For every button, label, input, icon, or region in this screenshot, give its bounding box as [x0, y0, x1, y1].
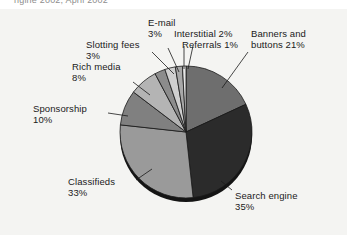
label-banners-pct: buttons 21%	[251, 40, 306, 51]
label-classifieds-text: Classifieds	[68, 176, 115, 187]
label-sponsorship: Sponsorship 10%	[33, 104, 87, 125]
label-banners: Banners and buttons 21%	[251, 29, 306, 50]
label-search-engine-text: Search engine	[235, 190, 298, 201]
label-banners-text: Banners and	[251, 28, 306, 39]
pie-slices	[120, 66, 252, 198]
label-interstitial-text: Interstitial 2%	[174, 28, 233, 39]
label-rich-media-text: Rich media	[72, 61, 121, 72]
label-search-engine-pct: 35%	[235, 202, 298, 213]
label-slotting-fees-text: Slotting fees	[86, 39, 140, 50]
label-sponsorship-pct: 10%	[33, 115, 87, 126]
label-slotting-fees-pct: 3%	[86, 51, 140, 62]
label-referrals-text: Referrals 1%	[182, 39, 238, 50]
label-classifieds-pct: 33%	[68, 188, 115, 199]
pie-slice-classifieds	[120, 125, 193, 198]
label-search-engine: Search engine 35%	[235, 191, 298, 212]
label-classifieds: Classifieds 33%	[68, 177, 115, 198]
label-interstitial: Interstitial 2%	[174, 29, 233, 40]
label-rich-media-pct: 8%	[72, 73, 121, 84]
leader-banners	[222, 52, 248, 88]
label-email: E-mail 3%	[148, 18, 176, 39]
label-rich-media: Rich media 8%	[72, 62, 121, 83]
label-email-text: E-mail	[148, 17, 176, 28]
figure-container: ngine 2002, April 2002 E-mail 3% Interst…	[0, 0, 347, 235]
label-sponsorship-text: Sponsorship	[33, 103, 87, 114]
label-referrals: Referrals 1%	[182, 40, 238, 51]
label-email-pct: 3%	[148, 29, 176, 40]
label-slotting-fees: Slotting fees 3%	[86, 40, 140, 61]
